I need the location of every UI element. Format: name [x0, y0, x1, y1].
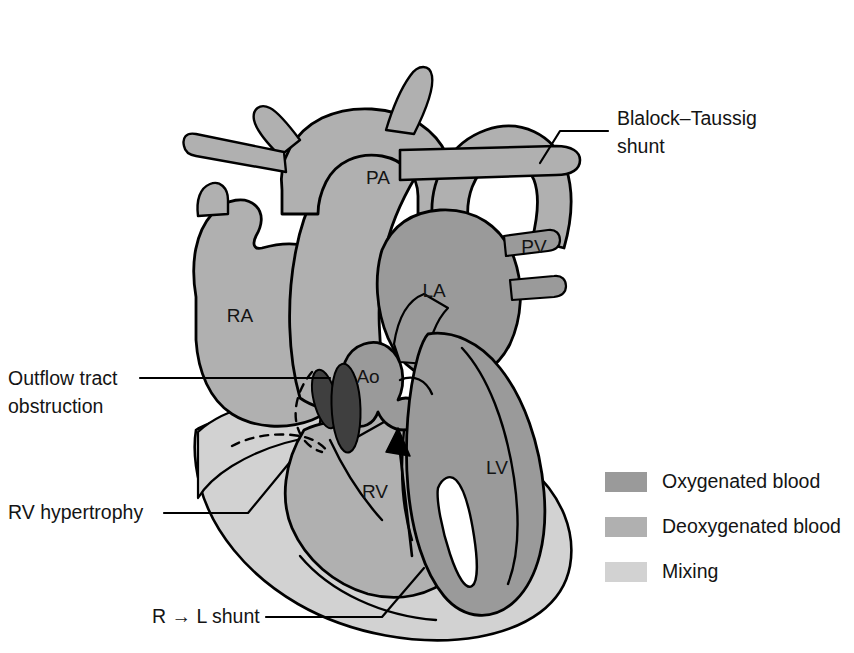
callout-blalock-taussig-shunt: Blalock–Taussig shunt — [617, 107, 762, 157]
chamber-label-ra: RA — [227, 305, 254, 326]
legend-group: Oxygenated blood Deoxygenated blood Mixi… — [605, 470, 841, 582]
callout-bt-line-1: Blalock–Taussig — [617, 107, 757, 129]
legend-swatch-mixing — [605, 562, 647, 582]
chamber-label-ao: Ao — [356, 366, 379, 387]
callout-r-to-l-shunt: R → L shunt — [152, 605, 260, 627]
pulmonary-vein-lower — [510, 276, 566, 300]
blalock-taussig-shunt-tube — [400, 146, 580, 180]
heart-anatomy-svg: PA PV LA RA Ao LV RV Blalock–Taussig shu… — [0, 0, 854, 653]
callout-rv-hypertrophy: RV hypertrophy — [8, 501, 143, 523]
chamber-label-lv: LV — [486, 457, 508, 478]
legend-label-deoxygenated: Deoxygenated blood — [662, 515, 841, 537]
callout-outflow-line-2: obstruction — [8, 395, 103, 417]
heart-diagram-figure: PA PV LA RA Ao LV RV Blalock–Taussig shu… — [0, 0, 854, 653]
chamber-label-pv: PV — [521, 236, 547, 257]
legend-swatch-deoxygenated — [605, 517, 647, 537]
legend-label-oxygenated: Oxygenated blood — [662, 470, 820, 492]
callout-outflow-line-1: Outflow tract — [8, 367, 118, 389]
chamber-label-rv: RV — [362, 481, 388, 502]
callout-outflow-tract-obstruction: Outflow tract obstruction — [8, 367, 123, 417]
chamber-label-pa: PA — [366, 167, 390, 188]
pa-branch-mid-upper — [386, 67, 432, 134]
vena-cava-stub — [198, 183, 229, 216]
callout-bt-line-2: shunt — [617, 135, 665, 157]
legend-label-mixing: Mixing — [662, 560, 718, 582]
legend-swatch-oxygenated — [605, 472, 647, 492]
chamber-label-la: LA — [422, 280, 446, 301]
